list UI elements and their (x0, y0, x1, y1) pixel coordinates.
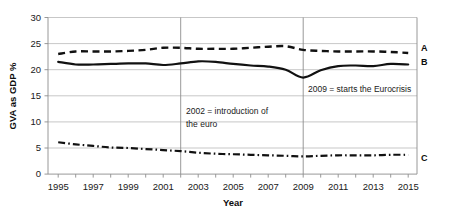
x-tick-label-1999: 1999 (118, 181, 139, 192)
y-tick-label-20: 20 (30, 64, 41, 75)
x-tick-label-1995: 1995 (48, 181, 69, 192)
line-chart: 0 5 10 15 20 25 30 1995 1997 1999 2001 2… (0, 0, 451, 217)
y-tick-label-30: 30 (30, 12, 41, 23)
annotation-eurocrisis-start: 2009 = starts the Eurocrisis (308, 84, 411, 94)
y-axis-title: GVA as GDP % (7, 62, 18, 129)
x-tick-label-2009: 2009 (293, 181, 314, 192)
x-tick-label-2001: 2001 (153, 181, 174, 192)
x-tick-label-2013: 2013 (363, 181, 384, 192)
series-label-a: A (421, 43, 428, 53)
annotation-euro-line2: the euro (186, 119, 217, 129)
x-tick-label-2015: 2015 (398, 181, 419, 192)
x-tick-label-2007: 2007 (258, 181, 279, 192)
x-axis-title: Year (223, 197, 243, 208)
y-tick-label-10: 10 (30, 116, 41, 127)
annotation-crisis-line1: 2009 = starts the Eurocrisis (308, 84, 411, 94)
x-axis-ticks (58, 174, 408, 178)
series-label-b: B (421, 57, 428, 67)
x-tick-label-2005: 2005 (223, 181, 244, 192)
x-axis-tick-labels: 1995 1997 1999 2001 2003 2005 2007 2009 … (48, 181, 419, 192)
y-tick-label-5: 5 (36, 142, 41, 153)
x-tick-label-2011: 2011 (328, 181, 348, 192)
x-tick-label-2003: 2003 (188, 181, 209, 192)
y-tick-label-0: 0 (36, 168, 41, 179)
y-tick-label-25: 25 (30, 38, 41, 49)
annotation-euro-line1: 2002 = introduction of (186, 106, 269, 116)
x-tick-label-1997: 1997 (83, 181, 104, 192)
y-tick-label-15: 15 (30, 90, 41, 101)
chart-container: 0 5 10 15 20 25 30 1995 1997 1999 2001 2… (0, 0, 451, 217)
series-label-c: C (421, 153, 428, 163)
